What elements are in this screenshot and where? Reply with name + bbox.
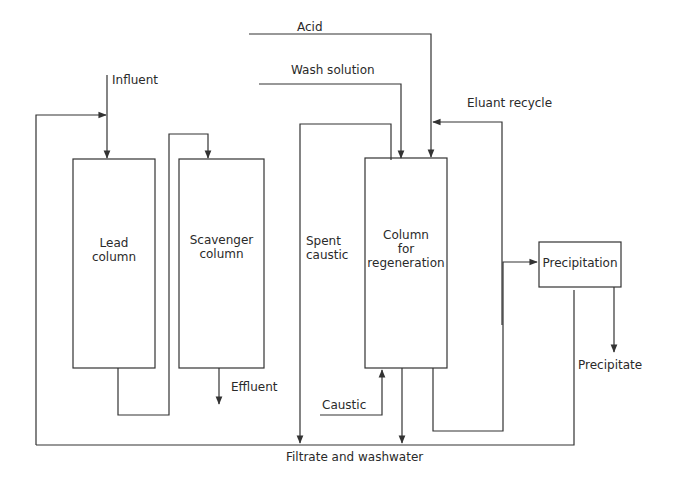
regen-to-precipitation-line [433, 262, 537, 431]
filtrate-label: Filtrate and washwater [286, 450, 423, 464]
effluent-label: Effluent [231, 380, 277, 394]
precipitation-label: Precipitation [539, 256, 621, 270]
precipitate-label: Precipitate [578, 358, 642, 372]
wash-solution-label: Wash solution [291, 63, 375, 77]
eluant-recycle-label: Eluant recycle [467, 96, 552, 110]
scavenger-column-label: Scavenger column [179, 233, 264, 261]
influent-label: Influent [112, 73, 158, 87]
acid-line [249, 34, 431, 157]
wash-solution-line [259, 84, 401, 158]
spent-caustic-line [300, 124, 391, 443]
lead-column-label: Lead column [73, 236, 155, 264]
regen-column-label: Column for regeneration [365, 228, 447, 270]
lead-to-scavenger-line [118, 134, 208, 415]
filtrate-recycle-line [36, 115, 106, 445]
scavenger-column-box [179, 159, 264, 368]
spent-caustic-label: Spent caustic [306, 234, 348, 262]
acid-label: Acid [297, 20, 323, 34]
caustic-label: Caustic [322, 398, 366, 412]
eluant-recycle-line [433, 122, 502, 325]
